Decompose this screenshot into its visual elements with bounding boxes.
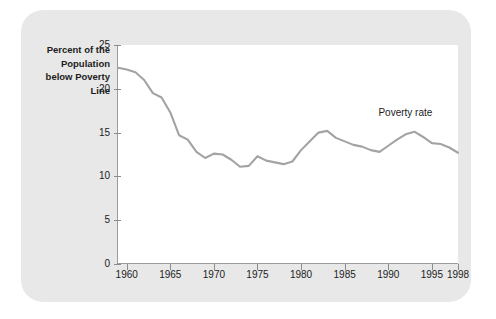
- x-tick-label: 1960: [116, 270, 138, 280]
- x-tick-label: 1975: [246, 270, 268, 280]
- y-tick-label: 0: [84, 259, 110, 269]
- x-tick-mark: [257, 264, 258, 270]
- y-tick-mark: [114, 89, 121, 90]
- x-tick-mark: [388, 264, 389, 270]
- poverty-rate-annotation: Poverty rate: [378, 107, 432, 118]
- plot-area: [118, 45, 458, 264]
- y-tick-mark: [114, 264, 121, 265]
- y-axis-line: [117, 45, 118, 264]
- y-tick-mark: [114, 133, 121, 134]
- x-tick-label: 1965: [159, 270, 181, 280]
- x-axis-line: [117, 263, 458, 264]
- x-tick-mark: [301, 264, 302, 270]
- x-tick-label: 1990: [377, 270, 399, 280]
- y-tick-label: 25: [84, 40, 110, 50]
- x-tick-mark: [432, 264, 433, 270]
- y-tick-mark: [114, 220, 121, 221]
- y-tick-label: 5: [84, 215, 110, 225]
- x-tick-mark: [345, 264, 346, 270]
- y-tick-mark: [114, 176, 121, 177]
- x-tick-label: 1995: [421, 270, 443, 280]
- x-tick-label: 1980: [290, 270, 312, 280]
- x-tick-label: 1970: [203, 270, 225, 280]
- x-tick-mark: [214, 264, 215, 270]
- x-tick-mark: [458, 264, 459, 270]
- y-tick-mark: [114, 45, 121, 46]
- y-tick-label: 10: [84, 171, 110, 181]
- x-tick-label: 1985: [334, 270, 356, 280]
- x-tick-label: 1998: [447, 270, 469, 280]
- y-tick-label: 20: [84, 84, 110, 94]
- x-tick-mark: [170, 264, 171, 270]
- y-tick-label: 15: [84, 128, 110, 138]
- x-tick-mark: [127, 264, 128, 270]
